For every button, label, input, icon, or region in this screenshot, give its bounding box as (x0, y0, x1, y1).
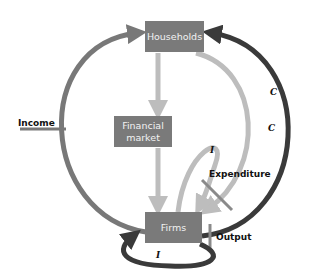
consumption-inner-arc (196, 53, 248, 209)
output-label: Output (216, 232, 252, 242)
consumption-inner-label: C (268, 123, 276, 133)
investment-inner-label: I (209, 145, 215, 155)
expenditure-label: Expenditure (209, 169, 271, 179)
investment-bottom-label: I (155, 250, 161, 260)
circular-flow-diagram: Households Financial market Firms Income… (0, 0, 310, 272)
households-label: Households (147, 31, 202, 42)
households-node: Households (145, 21, 204, 52)
consumption-outer-label: C (270, 87, 278, 97)
firms-label: Firms (161, 222, 186, 233)
financial-market-node: Financial market (114, 116, 172, 147)
financial-market-label-line2: market (126, 132, 160, 143)
income-label: Income (18, 118, 55, 128)
firms-node: Firms (145, 212, 202, 243)
financial-market-label-line1: Financial (122, 120, 164, 131)
investment-inner-loop (178, 148, 217, 212)
